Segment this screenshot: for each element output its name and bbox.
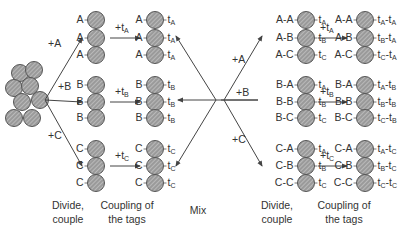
bead-icon [357, 30, 374, 47]
column4-residue-label: C-B [334, 160, 352, 171]
bead-icon [88, 12, 105, 29]
bead-icon [147, 47, 164, 64]
label-text: A [135, 13, 142, 25]
label-text: A-C [334, 48, 352, 60]
label-text: C [76, 142, 84, 154]
column2-residue-label: C [135, 177, 143, 188]
pool-bead-icon [22, 78, 39, 95]
label-text: C [135, 159, 143, 171]
label-text: +B [58, 80, 71, 92]
bead-icon [357, 158, 374, 175]
subscript: C [392, 165, 397, 172]
column4-tag-label: tA-tB [378, 79, 397, 91]
subscript: B [392, 117, 397, 124]
bead-icon [298, 141, 315, 158]
bead-icon [147, 77, 164, 94]
pool-bead-icon [26, 62, 43, 79]
step4-tag-label-2: +tC [320, 150, 334, 162]
subscript: A [124, 27, 129, 34]
column3-residue-label: B-C [275, 112, 293, 123]
label-text: +t [115, 21, 124, 33]
label-text: B-C [334, 111, 352, 123]
bead-icon [357, 94, 374, 111]
label-text: A-C [275, 48, 293, 60]
column4-residue-label: B-A [335, 79, 353, 90]
step3-label-0: +A [232, 54, 245, 65]
subscript: C [170, 182, 175, 189]
split-pool-synthesis-diagram: +A+B+CAAABBBCCC+tA+tB+tCAtAAtAAtABtBBtBB… [0, 0, 411, 232]
step2-tag-label-0: +tA [115, 22, 129, 34]
bead-icon [298, 110, 315, 127]
column2-tag-label: tB [168, 79, 176, 91]
column3-tag-label: tC [319, 49, 327, 61]
label-text: A [76, 13, 83, 25]
bead-icon [298, 12, 315, 29]
subscript: B [124, 91, 129, 98]
label-text: +t [320, 85, 329, 97]
bead-icon [147, 30, 164, 47]
bead-icon [357, 77, 374, 94]
step1-label-2: +C [48, 130, 62, 141]
label-text: C-A [275, 142, 293, 154]
column2-tag-label: tC [168, 177, 176, 189]
subscript: B [329, 91, 334, 98]
column3-tag-label: tC [319, 177, 327, 189]
bead-icon [88, 30, 105, 47]
label-text: C [135, 142, 143, 154]
column3-residue-label: A-C [275, 49, 293, 60]
label-text: B-B [335, 95, 353, 107]
arrow-line [176, 100, 216, 166]
column3-residue-label: C-C [275, 177, 294, 188]
subscript: A [170, 37, 175, 44]
label-text: C [76, 159, 84, 171]
subscript: C [321, 117, 326, 124]
label-text: B [135, 78, 142, 90]
label-text: B-C [275, 111, 293, 123]
column2-tag-label: tC [168, 160, 176, 172]
label-text: B-A [335, 78, 353, 90]
label-text: +A [232, 53, 245, 65]
subscript: B [321, 101, 326, 108]
label-text: +t [320, 149, 329, 161]
column2-tag-label: tB [168, 112, 176, 124]
subscript: B [170, 117, 175, 124]
subscript: C [321, 182, 326, 189]
subscript: B [321, 165, 326, 172]
subscript: B [170, 84, 175, 91]
bead-icon [88, 158, 105, 175]
bead-icon [88, 141, 105, 158]
subscript: A [392, 54, 397, 61]
label-text: A-B [276, 31, 294, 43]
column4-tag-label: tC-tC [378, 177, 397, 189]
label-text: +B [236, 86, 249, 98]
column3-residue-label: B-B [276, 96, 294, 107]
step2-tag-label-2: +tC [115, 150, 129, 162]
subscript: A [170, 54, 175, 61]
pool-bead-icon [24, 110, 41, 127]
subscript: A [392, 19, 397, 26]
column1-residue-label: A [76, 32, 83, 43]
caption-coupling-tags-2-line-1: the tags [294, 212, 394, 226]
subscript: B [392, 101, 397, 108]
label-text: B [76, 111, 83, 123]
step3-label-1: +B [236, 87, 249, 98]
column1-residue-label: A [76, 49, 83, 60]
column4-tag-label: tB-tA [378, 32, 397, 44]
column1-residue-label: C [76, 177, 84, 188]
column2-residue-label: C [135, 143, 143, 154]
column2-tag-label: tA [168, 49, 176, 61]
subscript: B [170, 101, 175, 108]
column3-residue-label: C-A [275, 143, 293, 154]
label-text: +t [115, 149, 124, 161]
bead-icon [88, 175, 105, 192]
subscript: C [170, 165, 175, 172]
subscript: C [329, 155, 334, 162]
subscript: B [392, 84, 397, 91]
bead-icon [147, 12, 164, 29]
label-text: B [135, 95, 142, 107]
label-text: C [76, 176, 84, 188]
column2-residue-label: A [135, 14, 142, 25]
label-text: B [76, 78, 83, 90]
column4-residue-label: C-A [334, 143, 352, 154]
column4-residue-label: A-B [335, 32, 353, 43]
